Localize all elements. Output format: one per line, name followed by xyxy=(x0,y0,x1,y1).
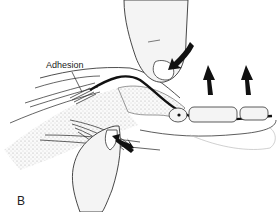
finger-adhesion-diagram xyxy=(0,0,280,212)
adhesion-leader-line xyxy=(72,72,82,92)
lift-arrow-1-icon xyxy=(203,65,215,95)
joint-pivot xyxy=(177,113,180,116)
finger-bones xyxy=(169,107,268,122)
finger-outline xyxy=(140,120,276,136)
finger-ghost-outline xyxy=(190,128,275,149)
adhesion-label: Adhesion xyxy=(46,60,84,70)
top-examiner-finger xyxy=(124,0,188,82)
panel-label: B xyxy=(17,194,25,208)
lift-arrow-2-icon xyxy=(241,65,253,95)
